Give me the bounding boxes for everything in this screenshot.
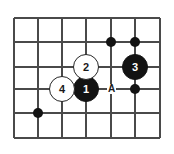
grid-line-horizontal-0 — [14, 17, 160, 19]
grid-line-horizontal-5 — [14, 137, 160, 139]
grid-line-vertical-6 — [159, 18, 161, 138]
stone-black-move-3: 3 — [122, 54, 148, 80]
go-board-diagram: 1234 A — [0, 0, 174, 154]
grid-line-vertical-0 — [13, 18, 15, 138]
point-label-a: A — [107, 84, 116, 94]
stone-black-plain-3 — [33, 108, 43, 118]
stone-black-plain-0 — [106, 37, 116, 47]
stone-black-plain-1 — [130, 37, 140, 47]
grid-line-vertical-1 — [37, 18, 39, 138]
stone-black-plain-2 — [130, 84, 140, 94]
grid-line-vertical-4 — [110, 18, 112, 138]
stone-white-move-4: 4 — [49, 76, 75, 102]
stone-white-move-2: 2 — [73, 54, 99, 80]
